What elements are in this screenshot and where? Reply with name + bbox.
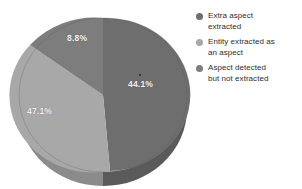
scan-artifact-dot [139,74,141,76]
legend-label-line2: extracted [208,22,253,33]
legend-label-line1: Entity extracted as [208,37,275,46]
legend-swatch-icon-entity-extracted [196,39,203,46]
legend-label-line1: Extra aspect [208,11,253,20]
slice-value-label-extra-aspect: 44.1% [128,79,153,89]
legend-item-entity-extracted-as-aspect: Entity extracted as an aspect [196,37,302,58]
legend-label-line2: but not extracted [208,74,268,85]
pie-graphic: 44.1% 47.1% 8.8% [0,0,196,189]
legend-item-extra-aspect-extracted: Extra aspect extracted [196,11,302,32]
legend-label-line1: Aspect detected [208,63,266,72]
slice-value-label-entity-extracted: 47.1% [27,106,52,116]
legend-swatch-icon-extra-aspect [196,13,203,20]
legend-label-aspect-detected: Aspect detected but not extracted [208,63,268,84]
pie-svg [0,0,196,189]
legend-item-aspect-detected-not-extracted: Aspect detected but not extracted [196,63,302,84]
slice-value-label-aspect-detected: 8.8% [67,33,87,43]
chart-legend: Extra aspect extracted Entity extracted … [196,11,302,89]
pie-chart: 44.1% 47.1% 8.8% Extra aspect extracted … [0,0,302,189]
legend-swatch-icon-aspect-detected [196,65,203,72]
pie-slice-extra-aspect-extracted [103,18,190,171]
legend-label-extra-aspect: Extra aspect extracted [208,11,253,32]
legend-label-line2: an aspect [208,48,275,59]
legend-label-entity-extracted: Entity extracted as an aspect [208,37,275,58]
